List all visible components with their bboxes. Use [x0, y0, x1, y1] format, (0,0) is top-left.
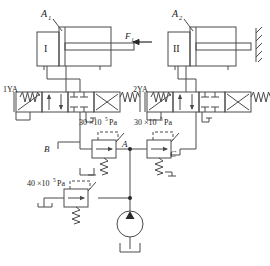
- dv1-manual-actuator: [16, 112, 30, 120]
- sv-right-spring: [155, 158, 163, 175]
- pressure-right-exponent: 5: [160, 116, 163, 122]
- cylinder-1-barrel: [59, 27, 111, 66]
- cylinder-1-port-lines: [47, 66, 80, 92]
- dv2-position-right: [199, 92, 225, 112]
- pump-flow-arrow: [126, 211, 135, 219]
- junction-relief: [128, 196, 132, 200]
- force-label: F: [124, 31, 131, 41]
- pressure-relief-unit: Pa: [57, 179, 65, 188]
- pressure-left-unit: Pa: [109, 118, 117, 127]
- pressure-relief-exponent: 5: [53, 177, 56, 183]
- pressure-label-relief: 40 ×10 5 Pa: [27, 177, 65, 188]
- node-a-label: A: [121, 139, 128, 149]
- fixed-wall-hatch: [256, 27, 262, 62]
- sv-right-drain-tank: [165, 172, 172, 176]
- pressure-relief-multiplier: ×10: [37, 179, 50, 188]
- pressure-right-value: 30: [134, 118, 142, 127]
- cylinder-1-area-leader: [53, 19, 62, 31]
- pressure-right-unit: Pa: [164, 118, 172, 127]
- dv2-spring-right: [251, 92, 270, 102]
- dv1-position-right: [68, 92, 94, 112]
- cylinder-2-area-label: A: [171, 8, 179, 19]
- pressure-label-left: 30 ×10 5 Pa: [79, 116, 117, 127]
- solenoid-2-coil: [151, 92, 171, 102]
- cylinder-2: [168, 19, 251, 70]
- sv-right-pilot: [153, 132, 173, 140]
- cylinder-1-area-label: A: [40, 8, 48, 19]
- cylinder-2-area-leader: [184, 19, 193, 31]
- pressure-left-value: 30: [79, 118, 87, 127]
- cylinder-1-cap: [37, 32, 59, 66]
- junction-node-a: [128, 147, 132, 151]
- rv-lever: [88, 182, 96, 191]
- sv-left-spring: [100, 158, 108, 175]
- pressure-left-exponent: 5: [105, 116, 108, 122]
- dv1-position-center: [42, 92, 68, 112]
- solenoid-1[interactable]: [20, 92, 40, 102]
- cylinder-1-area-sub: 1: [48, 14, 51, 21]
- cylinder-1-body-label: I: [44, 43, 47, 54]
- sequence-valve-left[interactable]: [80, 132, 124, 175]
- node-b-label: B: [44, 144, 50, 154]
- sv-left-drain-tank: [80, 168, 94, 175]
- rv-pilot: [70, 181, 90, 189]
- dv2-position-center: [173, 92, 199, 112]
- cylinder-1-rod: [65, 43, 134, 50]
- cylinder-2-port-lines: [178, 66, 196, 92]
- force-arrow: [133, 39, 152, 44]
- dv2-bottom-ports: [196, 112, 212, 126]
- dv1-spring-right: [120, 92, 140, 112]
- sv-right-lever: [171, 133, 179, 142]
- schematic-canvas: A 1 I F 1 A 2 II: [0, 0, 270, 266]
- node-c-label: C: [170, 149, 177, 159]
- rv-drain-tank: [38, 203, 52, 207]
- rv-spring: [72, 207, 80, 224]
- pressure-left-multiplier: ×10: [89, 118, 102, 127]
- cylinder-1: [37, 19, 134, 70]
- solenoid-2-label: 2YA: [133, 85, 148, 94]
- cylinder-2-barrel: [190, 27, 236, 66]
- hydraulic-pump: [117, 211, 143, 249]
- solenoid-1-label: 1YA: [3, 85, 18, 94]
- pressure-label-right: 30 ×10 5 Pa: [134, 116, 172, 127]
- cylinder-2-rod: [196, 43, 251, 50]
- pressure-right-multiplier: ×10: [144, 118, 157, 127]
- cylinder-2-area-sub: 2: [179, 14, 183, 21]
- force-sub: 1: [131, 37, 134, 43]
- solenoid-2[interactable]: [151, 92, 171, 102]
- sv-left-pilot: [98, 132, 118, 140]
- solenoid-1-coil: [20, 92, 40, 102]
- pressure-relief-value: 40: [27, 179, 35, 188]
- hydraulic-schematic-figure: A 1 I F 1 A 2 II: [0, 0, 270, 266]
- cylinder-2-body-label: II: [173, 43, 180, 54]
